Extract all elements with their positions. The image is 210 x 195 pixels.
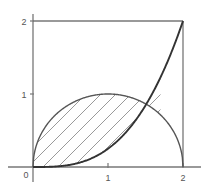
origin-tick-label: 0 <box>23 170 28 180</box>
x-tick-label: 1 <box>105 173 110 183</box>
hatch-line <box>145 0 210 195</box>
hatch-line <box>85 0 210 195</box>
y-tick-label: 2 <box>21 17 26 27</box>
hatch-line <box>0 0 60 195</box>
hatch-line <box>0 0 90 195</box>
x-tick-label: 2 <box>180 173 185 183</box>
tick-labels: 01212 <box>21 17 185 183</box>
hatch-lines <box>0 0 210 195</box>
hatch-line <box>0 0 195 195</box>
hatched-area <box>0 0 210 195</box>
hatch-line <box>205 0 210 195</box>
hatch-line <box>130 0 210 195</box>
curve-semicircle <box>33 94 183 167</box>
hatch-line <box>70 0 210 195</box>
y-tick-label: 1 <box>21 90 26 100</box>
hatch-line <box>190 0 210 195</box>
hatch-line <box>0 0 15 195</box>
hatch-line <box>0 0 180 195</box>
figure-container: 01212 <box>0 0 210 195</box>
plot-svg: 01212 <box>0 0 210 195</box>
hatch-line <box>160 0 210 195</box>
hatch-line <box>100 0 210 195</box>
